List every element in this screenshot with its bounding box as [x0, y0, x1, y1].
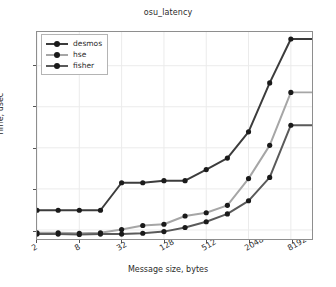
data-point-marker — [161, 178, 166, 183]
legend-item-hse[interactable]: hse — [46, 49, 102, 60]
data-point-marker — [119, 227, 124, 232]
data-point-marker — [161, 222, 166, 227]
data-point-marker — [246, 129, 251, 134]
chart-figure: osu_latency Time, usec Message size, byt… — [0, 0, 336, 287]
legend-item-label: desmos — [73, 39, 102, 48]
data-point-marker — [140, 223, 145, 228]
data-point-marker — [161, 229, 166, 234]
legend-swatch-icon — [46, 50, 68, 59]
x-axis-label: Message size, bytes — [0, 265, 336, 274]
data-point-marker — [246, 198, 251, 203]
y-axis-label: Time, usec — [0, 93, 5, 136]
data-point-marker — [204, 210, 209, 215]
data-point-marker — [225, 211, 230, 216]
legend-item-fisher[interactable]: fisher — [46, 60, 102, 71]
data-point-marker — [204, 167, 209, 172]
x-tick-label: 2 — [30, 242, 39, 252]
legend-swatch-icon — [46, 39, 68, 48]
data-point-marker — [182, 213, 187, 218]
data-point-marker — [119, 231, 124, 236]
legend-swatch-icon — [46, 61, 68, 70]
x-tick-mark — [79, 240, 80, 243]
data-point-marker — [225, 203, 230, 208]
x-tick-label: 8 — [73, 242, 82, 252]
data-point-marker — [182, 225, 187, 230]
data-point-marker — [98, 208, 103, 213]
legend-item-label: hse — [73, 50, 86, 59]
legend-item-desmos[interactable]: desmos — [46, 38, 102, 49]
data-point-marker — [119, 180, 124, 185]
data-point-marker — [288, 90, 293, 95]
data-point-marker — [267, 175, 272, 180]
data-point-marker — [204, 219, 209, 224]
x-tick-mark — [36, 240, 37, 243]
data-point-marker — [77, 208, 82, 213]
data-point-marker — [140, 231, 145, 236]
data-point-marker — [37, 208, 40, 213]
data-point-marker — [140, 180, 145, 185]
x-tick-label: 32 — [115, 240, 128, 253]
data-point-marker — [288, 123, 293, 128]
data-point-marker — [56, 231, 61, 236]
data-point-marker — [98, 231, 103, 236]
data-point-marker — [77, 232, 82, 237]
data-point-marker — [182, 178, 187, 183]
data-point-marker — [246, 176, 251, 181]
data-point-marker — [267, 143, 272, 148]
data-point-marker — [267, 80, 272, 85]
data-point-marker — [225, 156, 230, 161]
legend-item-label: fisher — [73, 61, 94, 70]
chart-legend[interactable]: desmoshsefisher — [41, 34, 108, 75]
data-point-marker — [288, 36, 293, 41]
data-point-marker — [56, 208, 61, 213]
chart-title: osu_latency — [0, 8, 336, 17]
